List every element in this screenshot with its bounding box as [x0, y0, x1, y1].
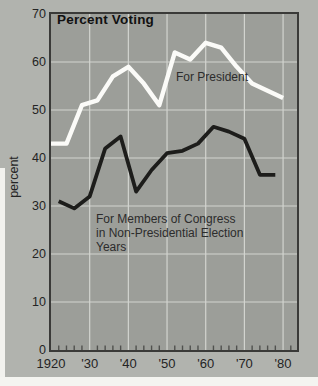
plot-area — [49, 12, 299, 352]
x-tick-label-1950: '50 — [145, 357, 189, 371]
congress-series-label-line2: in Non-Presidential Election — [96, 226, 243, 240]
page-edge-bottom — [0, 377, 318, 386]
x-tick-label-1930: '30 — [68, 357, 112, 371]
y-tick-label-20: 20 — [16, 247, 46, 261]
y-tick-label-70: 70 — [16, 7, 46, 21]
x-tick-label-1940: '40 — [106, 357, 150, 371]
congress-series-label: For Members of Congress in Non-President… — [96, 212, 243, 254]
y-tick-label-60: 60 — [16, 55, 46, 69]
x-tick-label-1920: 1920 — [29, 357, 73, 371]
president-series-label: For President — [176, 70, 248, 84]
y-tick-label-30: 30 — [16, 199, 46, 213]
chart-title: Percent Voting — [57, 12, 154, 27]
congress-series-label-line1: For Members of Congress — [96, 212, 243, 226]
figure-scan: Percent Voting For President For Members… — [0, 0, 318, 386]
page-edge-left — [0, 168, 5, 386]
y-tick-label-50: 50 — [16, 103, 46, 117]
congress-series-label-line3: Years — [96, 240, 243, 254]
x-tick-label-1960: '60 — [184, 357, 228, 371]
y-tick-label-0: 0 — [16, 343, 46, 357]
x-tick-label-1980: '80 — [261, 357, 305, 371]
y-tick-label-10: 10 — [16, 295, 46, 309]
y-tick-label-40: 40 — [16, 151, 46, 165]
chart-canvas — [51, 14, 297, 350]
x-tick-label-1970: '70 — [222, 357, 266, 371]
